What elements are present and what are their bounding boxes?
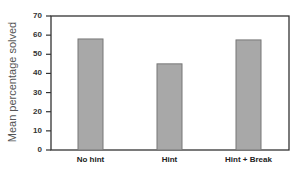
y-tick-label: 0 [22, 145, 42, 154]
plot-area [0, 0, 302, 169]
x-category-label: No hint [51, 155, 131, 164]
bars [78, 39, 261, 150]
bar [236, 40, 261, 150]
x-category-label: Hint [130, 155, 210, 164]
y-axis-ticks [46, 16, 51, 150]
y-tick-label: 10 [22, 126, 42, 135]
bar [157, 64, 182, 150]
y-tick-label: 20 [22, 107, 42, 116]
y-tick-label: 40 [22, 68, 42, 77]
bar-chart: Mean percentage solved 010203040506070 N… [0, 0, 302, 169]
x-category-label: Hint + Break [209, 155, 289, 164]
bar [78, 39, 103, 150]
y-tick-label: 60 [22, 30, 42, 39]
y-tick-label: 50 [22, 49, 42, 58]
y-tick-label: 30 [22, 88, 42, 97]
y-tick-label: 70 [22, 11, 42, 20]
